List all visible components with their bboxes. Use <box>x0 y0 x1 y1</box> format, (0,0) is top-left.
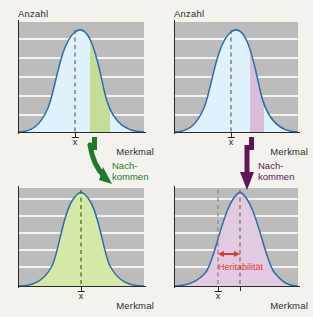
offspring-callout-green: Nach- kommen <box>112 160 148 182</box>
y-axis-line <box>18 20 19 134</box>
y-axis-line <box>174 20 175 134</box>
x-axis-label: Merkmal <box>116 146 154 157</box>
mean-label: x <box>228 137 235 147</box>
offspring-callout-purple: Nach- kommen <box>258 160 294 182</box>
y-axis-line <box>174 186 175 288</box>
panel-bottom-left: x Merkmal <box>6 160 156 312</box>
shifted-mean-tick <box>240 286 241 291</box>
plot-area-top-right <box>174 22 298 132</box>
plot-area-top-left <box>18 22 144 132</box>
heritability-label: Heritabilität <box>218 262 263 272</box>
parent-distribution-area <box>18 30 144 132</box>
plot-area-bottom-left <box>18 188 144 286</box>
mean-label: x <box>72 137 79 147</box>
x-axis-label: Merkmal <box>116 300 154 311</box>
mean-label: x <box>215 291 222 301</box>
y-axis-line <box>18 186 19 288</box>
parent-distribution-area <box>174 30 298 132</box>
selection-marker-green <box>92 137 97 150</box>
x-axis-line <box>174 286 300 287</box>
panel-top-right: Anzahl x Merkmal <box>162 6 310 158</box>
y-axis-label: Anzahl <box>18 8 48 19</box>
panel-bottom-right: Heritabilität x Merkmal <box>162 160 310 312</box>
selection-marker-purple <box>249 137 254 150</box>
panel-top-left: Anzahl x Merkmal <box>6 6 156 158</box>
x-axis-label: Merkmal <box>270 300 308 311</box>
distribution-svg-bottom-left <box>18 188 144 286</box>
x-axis-label: Merkmal <box>270 146 308 157</box>
distribution-svg-top-left <box>18 22 144 132</box>
figure-root: Anzahl x Merkmal <box>0 0 313 317</box>
distribution-svg-top-right <box>174 22 298 132</box>
y-axis-label: Anzahl <box>174 8 204 19</box>
plot-area-bottom-right: Heritabilität <box>174 188 298 286</box>
x-axis-line <box>18 132 146 133</box>
mean-label: x <box>78 291 85 301</box>
selection-shaded-region <box>90 22 110 132</box>
x-axis-line <box>174 132 300 133</box>
